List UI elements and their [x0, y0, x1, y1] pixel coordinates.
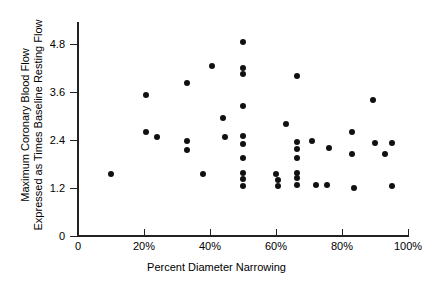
data-point — [382, 151, 388, 157]
data-point — [240, 176, 246, 182]
x-axis-tick-label: 80% — [331, 241, 353, 252]
data-point — [143, 92, 149, 98]
data-point — [309, 138, 315, 144]
data-point — [184, 147, 190, 153]
data-point — [143, 129, 149, 135]
y-axis-title-line-2: Expressed as Times Baseline Resting Flow — [32, 7, 45, 243]
y-axis-tick — [70, 44, 77, 45]
data-point — [154, 134, 160, 140]
data-point — [349, 151, 355, 157]
data-point — [294, 175, 300, 181]
x-axis-title: Percent Diameter Narrowing — [0, 261, 433, 273]
y-axis-tick — [70, 236, 77, 237]
data-point — [184, 80, 190, 86]
data-point — [240, 155, 246, 161]
data-point — [313, 182, 319, 188]
y-axis-title: Maximum Coronary Blood Flow Expressed as… — [19, 7, 45, 243]
data-point — [222, 134, 228, 140]
data-point — [200, 171, 206, 177]
data-point — [240, 71, 246, 77]
x-axis-tick — [408, 229, 409, 236]
data-point — [209, 63, 215, 69]
x-axis-tick-label: 0 — [75, 241, 81, 252]
data-point — [240, 103, 246, 109]
data-point — [240, 141, 246, 147]
data-point — [294, 146, 300, 152]
data-point — [370, 97, 376, 103]
x-axis-tick-label: 20% — [133, 241, 155, 252]
y-axis-tick-label: 3.6 — [50, 87, 65, 98]
data-point — [389, 183, 395, 189]
data-point — [240, 183, 246, 189]
y-axis-title-line-1: Maximum Coronary Blood Flow — [19, 7, 32, 243]
y-axis-tick-label: 4.8 — [50, 39, 65, 50]
y-axis-tick-label: 2.4 — [50, 135, 65, 146]
y-axis-tick — [70, 92, 77, 93]
data-point — [294, 139, 300, 145]
y-axis-tick — [70, 188, 77, 189]
x-axis-tick-label: 60% — [265, 241, 287, 252]
scatter-plot-figure: 01.22.43.64.8 020%40%60%80%100% Percent … — [0, 0, 433, 283]
data-point — [240, 133, 246, 139]
data-point — [275, 183, 281, 189]
data-point — [372, 140, 378, 146]
data-point — [324, 182, 330, 188]
data-point — [349, 129, 355, 135]
data-point — [294, 155, 300, 161]
plot-area — [78, 22, 408, 236]
data-point — [326, 145, 332, 151]
data-point — [184, 138, 190, 144]
x-axis-tick-label: 100% — [394, 241, 422, 252]
data-point — [220, 115, 226, 121]
x-axis-tick-label: 40% — [199, 241, 221, 252]
y-axis-tick — [70, 140, 77, 141]
y-axis-tick-label: 0 — [59, 231, 65, 242]
data-point — [240, 39, 246, 45]
data-point — [283, 121, 289, 127]
data-point — [351, 185, 357, 191]
data-point — [240, 170, 246, 176]
y-axis-tick-label: 1.2 — [50, 183, 65, 194]
data-point — [294, 73, 300, 79]
data-point — [108, 171, 114, 177]
data-point — [389, 140, 395, 146]
data-point — [294, 182, 300, 188]
